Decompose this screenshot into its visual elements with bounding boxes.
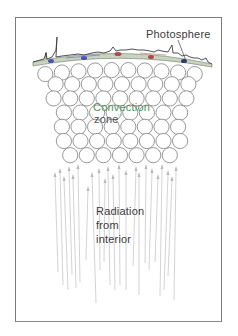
convection-cell bbox=[162, 148, 177, 163]
spot-red-2 bbox=[148, 55, 154, 59]
convection-cell bbox=[73, 133, 88, 148]
photosphere-label: Photosphere bbox=[146, 28, 211, 40]
spot-darkblue-1 bbox=[181, 59, 187, 63]
convection-cell bbox=[56, 133, 71, 148]
convection-cell bbox=[112, 148, 127, 163]
convection-cell bbox=[129, 148, 144, 163]
arrowheads bbox=[54, 164, 178, 191]
convection-cell bbox=[154, 119, 169, 134]
convection-cell bbox=[46, 91, 61, 106]
convection-cell bbox=[88, 63, 103, 78]
convection-cell bbox=[48, 77, 63, 92]
convection-cell bbox=[73, 105, 88, 120]
convection-cell bbox=[173, 105, 188, 120]
convection-cell bbox=[173, 133, 188, 148]
convection-cell bbox=[90, 133, 105, 148]
convection-cell bbox=[114, 77, 129, 92]
convection-zone-label-line2: zone bbox=[94, 113, 119, 125]
convection-cell bbox=[81, 77, 96, 92]
convection-cell bbox=[137, 63, 152, 78]
convection-cell bbox=[131, 77, 146, 92]
convection-cell bbox=[63, 148, 78, 163]
convection-cell bbox=[79, 148, 94, 163]
convection-cell bbox=[156, 133, 171, 148]
convection-cell bbox=[121, 119, 136, 134]
convection-zone-label-line1: Convection bbox=[93, 101, 150, 113]
spot-blue-1 bbox=[48, 59, 54, 63]
convection-cell bbox=[65, 77, 80, 92]
convection-cell bbox=[137, 119, 152, 134]
convection-cell bbox=[148, 77, 163, 92]
convection-cell bbox=[54, 119, 69, 134]
convection-cell bbox=[156, 105, 171, 120]
convection-cell bbox=[146, 148, 161, 163]
radiation-label-line2: from bbox=[96, 219, 119, 231]
convection-cell bbox=[162, 91, 177, 106]
convection-cell bbox=[164, 77, 179, 92]
convection-cell bbox=[71, 119, 86, 134]
convection-cell bbox=[139, 133, 154, 148]
convection-cell bbox=[98, 77, 113, 92]
convection-cell bbox=[104, 63, 119, 78]
sun-convection-diagram bbox=[0, 0, 238, 336]
radiation-label-line1: Radiation bbox=[96, 205, 144, 217]
convection-cell bbox=[63, 91, 78, 106]
convection-cell bbox=[123, 133, 138, 148]
convection-cell bbox=[179, 91, 194, 106]
convection-cell bbox=[56, 105, 71, 120]
photosphere-band bbox=[33, 37, 212, 67]
convection-cell bbox=[96, 148, 111, 163]
convection-cell bbox=[106, 133, 121, 148]
convection-cell bbox=[181, 77, 196, 92]
spot-red-1 bbox=[115, 52, 122, 56]
convection-cell bbox=[121, 63, 136, 78]
convection-cell bbox=[171, 119, 186, 134]
radiation-label-line3: interior bbox=[96, 233, 131, 245]
